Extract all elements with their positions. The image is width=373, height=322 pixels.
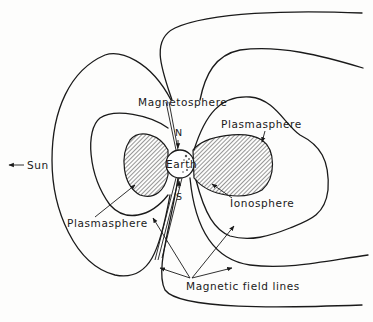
- field-line-pointers: [153, 218, 234, 278]
- plasmasphere-right: [193, 135, 273, 196]
- field-lines-tail-north: [160, 12, 363, 100]
- earth-label: Earth: [166, 158, 197, 170]
- earth: Earth: [166, 150, 197, 178]
- plasmasphere-left-label: Plasmasphere: [67, 217, 148, 229]
- ionosphere-label: Ionosphere: [230, 197, 294, 209]
- magnetosphere-diagram: Earth N S Magnetosphere Plasmasphere Pla…: [0, 0, 373, 322]
- south-pole-label: S: [176, 191, 182, 202]
- plasmasphere-left: [124, 134, 168, 196]
- sun-direction: Sun: [9, 159, 49, 171]
- north-pole-label: N: [175, 127, 182, 138]
- sun-label: Sun: [27, 159, 49, 171]
- magnetosphere-label: Magnetosphere: [138, 96, 227, 108]
- plasmasphere-right-pointer: [262, 131, 265, 142]
- magnetic-field-lines-label: Magnetic field lines: [186, 280, 300, 292]
- plasmasphere-right-label: Plasmasphere: [221, 118, 302, 130]
